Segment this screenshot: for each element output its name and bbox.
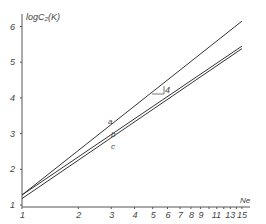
x-axis-label: Ne: [240, 196, 251, 205]
x-tick-label: 2: [75, 210, 81, 220]
x-tick-label: 5: [151, 210, 157, 220]
x-tick-label: 4: [133, 210, 138, 220]
x-tick-label: 15: [237, 210, 248, 220]
series-line-b: [22, 46, 242, 195]
slope-label: 4: [165, 85, 170, 95]
y-tick-label: 5: [10, 57, 16, 67]
y-ticks: 123456: [9, 22, 22, 211]
series-label-c: c: [111, 142, 115, 151]
series-lines: [22, 21, 242, 198]
y-tick-label: 1: [10, 200, 15, 210]
x-tick-label: 1: [20, 210, 25, 220]
series-label-b: b: [111, 130, 116, 139]
y-axis-label: logC₂(K): [26, 12, 60, 22]
x-tick-label: 6: [166, 210, 171, 220]
y-tick-label: 4: [10, 93, 15, 103]
x-tick-label: 3: [109, 210, 114, 220]
x-ticks: 123456789111315: [20, 207, 248, 220]
x-tick-label: 7: [178, 210, 184, 220]
chart: 123456 123456789111315 logC₂(K) Ne a b c…: [0, 0, 266, 224]
x-tick-label: 13: [225, 210, 235, 220]
series-line-a: [22, 21, 242, 195]
x-tick-label: 9: [198, 210, 203, 220]
x-tick-label: 11: [212, 210, 221, 220]
y-tick-label: 6: [10, 22, 15, 32]
x-tick-label: 8: [189, 210, 194, 220]
axes: [22, 14, 250, 207]
series-line-c: [22, 49, 242, 199]
y-tick-label: 3: [10, 129, 15, 139]
series-label-a: a: [108, 117, 113, 126]
y-tick-label: 2: [9, 164, 15, 174]
